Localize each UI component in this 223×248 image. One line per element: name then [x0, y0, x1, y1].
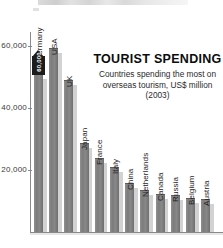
- bar-shadow: [180, 200, 184, 232]
- chart-subtitle-line-1: Countries spending the most on: [92, 69, 223, 80]
- bar-label-china: China: [126, 168, 135, 189]
- bar-shadow: [149, 195, 153, 232]
- y-axis-line: [30, 32, 31, 233]
- callout-value-label: 60,000: [32, 50, 45, 75]
- bar-label-austria: Austria: [202, 181, 211, 207]
- bar-shadow: [195, 203, 199, 232]
- bar-uk[interactable]: [64, 80, 73, 232]
- bar-shadow: [119, 172, 123, 232]
- y-axis-tick-label: 20,000: [0, 165, 27, 174]
- bar-label-netherlands: Netherlands: [141, 153, 150, 197]
- bar-shadow: [134, 188, 138, 232]
- plot-area: 60,00040,00020,000 Germany60,000USAUKJap…: [30, 14, 223, 233]
- bar-shadow: [165, 199, 169, 232]
- cropped-image-strip: [38, 0, 188, 5]
- title-block: TOURIST SPENDING Countries spending the …: [92, 52, 223, 101]
- y-axis-tick-mark: [28, 170, 32, 171]
- y-axis-tick-label: 40,000: [0, 103, 27, 112]
- y-axis-tick-mark: [28, 108, 32, 109]
- bar-label-canada: Canada: [156, 173, 165, 202]
- bar-shadow: [104, 163, 108, 232]
- chart-title: TOURIST SPENDING: [92, 52, 223, 66]
- bar-label-italy: Italy: [111, 159, 120, 174]
- bar-shadow: [58, 53, 62, 232]
- chart-subtitle: Countries spending the most on overseas …: [92, 69, 223, 101]
- bar-shadow: [73, 85, 77, 232]
- bar-label-japan: Japan: [80, 127, 89, 149]
- chart-subtitle-line-2: overseas tourism, US$ million (2003): [92, 80, 223, 101]
- y-axis-tick-label: 60,000: [0, 41, 27, 50]
- x-axis-shadow: [30, 233, 223, 235]
- bar-usa[interactable]: [49, 48, 58, 232]
- bar-shadow: [89, 148, 93, 232]
- bar-shadow: [210, 204, 214, 232]
- bar-label-uk: UK: [65, 75, 74, 86]
- bar-shadow: [43, 79, 47, 232]
- bar-germany[interactable]: [34, 74, 43, 232]
- bar-france[interactable]: [95, 158, 104, 232]
- y-axis-tick-mark: [28, 46, 32, 47]
- tourist-spending-chart: 60,00040,00020,000 Germany60,000USAUKJap…: [0, 0, 223, 248]
- bar-label-usa: USA: [50, 39, 59, 56]
- bar-china[interactable]: [125, 183, 134, 232]
- bar-italy[interactable]: [110, 167, 119, 232]
- cropped-image-speck: [33, 8, 39, 11]
- bar-japan[interactable]: [80, 143, 89, 232]
- value-callout-germany: 60,000: [32, 50, 45, 75]
- bar-label-belgium: Belgium: [187, 175, 196, 205]
- bar-label-russia: Russia: [171, 177, 180, 202]
- bar-label-france: France: [95, 140, 104, 166]
